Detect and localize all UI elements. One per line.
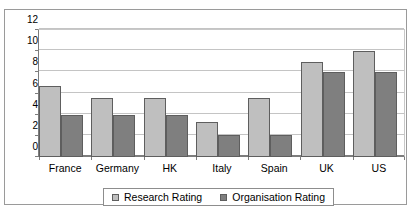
legend: Research RatingOrganisation Rating [103,188,334,206]
x-axis-label-us: US [353,162,405,175]
bar [166,115,188,157]
x-tick-mark [144,157,145,160]
y-tick-label: 10 [12,36,38,46]
y-axis: 024681012 [8,29,38,157]
y-tick-label: 0 [12,142,38,152]
x-tick-mark [248,157,249,160]
bar [301,62,323,157]
y-tick-label: 4 [12,100,38,110]
bar [39,86,61,157]
bar [61,115,83,157]
bars-layer [39,30,405,157]
bar [270,135,292,157]
x-axis-ticks [39,157,405,161]
legend-label: Research Rating [124,191,202,203]
bar [91,98,113,157]
bar [113,115,135,157]
bar [144,98,166,157]
x-axis-labels: FranceGermanyHKItalySpainUKUS [39,162,405,176]
chart-frame: 024681012 FranceGermanyHKItalySpainUKUS … [4,9,407,205]
y-tick-label: 2 [12,121,38,131]
x-axis-label-germany: Germany [91,162,143,175]
y-tick-label: 6 [12,79,38,89]
y-tick-label: 12 [12,15,38,25]
legend-swatch-icon [112,194,119,201]
x-axis-label-italy: Italy [196,162,248,175]
bar [248,98,270,157]
bar [353,51,375,157]
x-axis-label-hk: HK [144,162,196,175]
x-tick-mark [196,157,197,160]
legend-swatch-icon [220,194,227,201]
clipped-text-artifact [0,0,413,7]
bar [375,72,397,157]
x-tick-mark [353,157,354,160]
x-tick-mark [39,157,40,160]
y-tick-label: 8 [12,57,38,67]
x-axis-label-france: France [39,162,91,175]
bar [196,122,218,157]
legend-entry: Research Rating [112,191,202,203]
x-tick-mark [404,157,405,160]
x-axis-label-spain: Spain [248,162,300,175]
x-axis-label-uk: UK [300,162,352,175]
legend-label: Organisation Rating [232,191,325,203]
gridline-12 [39,28,404,29]
bar [218,135,240,157]
x-tick-mark [300,157,301,160]
legend-entry: Organisation Rating [220,191,325,203]
x-tick-mark [91,157,92,160]
bar [323,72,345,157]
chart-screenshot: 024681012 FranceGermanyHKItalySpainUKUS … [0,0,413,210]
